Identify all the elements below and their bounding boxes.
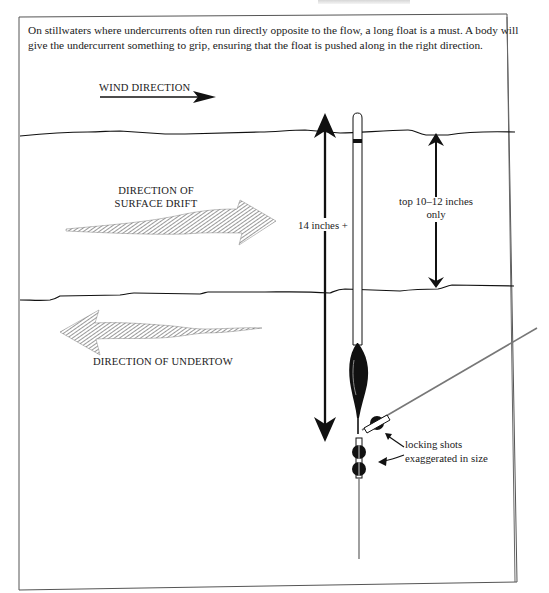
surface-drift-label: DIRECTION OF SURFACE DRIFT [96,184,216,210]
top-depth-label-line2: only [390,208,482,221]
float-length-label: 14 inches + [298,219,348,232]
figure-frame [19,14,517,590]
top-depth-label: top 10–12 inches only [390,195,482,221]
line-to-rod [362,328,537,430]
top-depth-label-line1: top 10–12 inches [390,195,482,208]
surface-line [20,130,515,136]
frame-right-edge [507,17,515,582]
figure-caption: On stillwaters where undercurrents often… [28,23,528,52]
diagram-canvas [0,0,549,593]
surface-drift-label-line1: DIRECTION OF [96,184,216,197]
shot-pointer-arrows [378,433,404,466]
subsurface-line [20,285,514,300]
locking-shots-label-line1: locking shots [405,438,488,452]
undertow-arrow [60,310,262,355]
surface-drift-label-line2: SURFACE DRIFT [96,197,216,210]
undertow-label: DIRECTION OF UNDERTOW [93,355,233,368]
locking-shots-label: locking shots exaggerated in size [405,438,488,465]
locking-shots-label-line2: exaggerated in size [405,452,488,466]
float-body [349,343,368,418]
float-length-arrow [314,113,336,442]
float [353,113,362,345]
wind-direction-label: WIND DIRECTION [99,81,190,94]
